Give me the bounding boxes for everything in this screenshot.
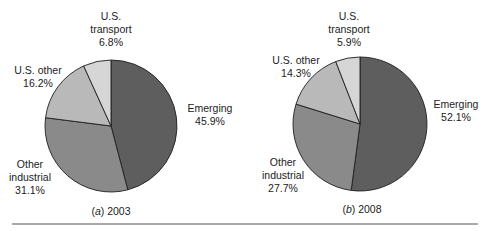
label-other-industrial-line1: Other bbox=[270, 156, 297, 168]
label-us-transport-pct: 6.8% bbox=[99, 36, 123, 48]
label-us-other-pct: 14.3% bbox=[281, 67, 311, 79]
pie-chart-2003 bbox=[45, 60, 177, 192]
label-other-industrial-line2: industrial bbox=[9, 171, 51, 183]
label-us-other: U.S. other bbox=[14, 64, 62, 76]
label-us-transport-pct: 5.9% bbox=[337, 36, 361, 48]
label-us-transport-line1: U.S. bbox=[101, 10, 121, 22]
label-emerging: Emerging bbox=[188, 102, 233, 114]
label-emerging: Emerging bbox=[434, 98, 479, 110]
label-other-industrial-line2: industrial bbox=[262, 169, 304, 181]
slice-emerging bbox=[351, 57, 427, 191]
label-other-industrial-line1: Other bbox=[17, 158, 44, 170]
label-us-transport-line2: transport bbox=[328, 23, 370, 35]
label-emerging-pct: 52.1% bbox=[441, 111, 471, 123]
label-us-transport-line2: transport bbox=[90, 23, 132, 35]
figure: U.S. transport 6.8% U.S. other 16.2% Eme… bbox=[0, 0, 488, 231]
caption-2003: (a) 2003 bbox=[91, 205, 130, 217]
label-other-industrial-pct: 31.1% bbox=[15, 184, 45, 196]
label-emerging-pct: 45.9% bbox=[195, 115, 225, 127]
label-us-other-pct: 16.2% bbox=[23, 77, 53, 89]
label-us-other: U.S. other bbox=[272, 54, 320, 66]
pie-chart-2008 bbox=[293, 57, 427, 191]
label-us-transport-line1: U.S. bbox=[339, 10, 359, 22]
label-other-industrial-pct: 27.7% bbox=[268, 182, 298, 194]
caption-2008: (b) 2008 bbox=[342, 203, 381, 215]
